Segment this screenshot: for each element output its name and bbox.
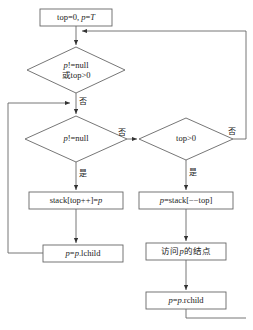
edge-label-top-yes: 是 xyxy=(189,166,197,177)
edge-go-right-feedback xyxy=(186,309,246,318)
node-push-shape xyxy=(29,192,123,209)
node-init-shape xyxy=(40,9,112,26)
edge-top-no-feedback xyxy=(82,31,246,139)
edge-label-pnull-no: 否 xyxy=(118,126,126,137)
node-go-left-shape xyxy=(43,245,123,262)
edge-label-main-no: 否 xyxy=(79,95,87,106)
flowchart-canvas: top=0, p=T p!=null 或top>0 p!=null top>0 … xyxy=(0,0,253,330)
edge-label-pnull-yes: 是 xyxy=(79,167,87,178)
node-pop-shape xyxy=(139,192,233,209)
edge-label-top-no: 否 xyxy=(228,125,236,136)
node-visit-shape xyxy=(146,243,226,260)
node-cond-main-shape xyxy=(27,47,125,93)
node-cond-top-shape xyxy=(139,118,233,160)
flowchart-graphics xyxy=(0,0,253,330)
node-go-right-shape xyxy=(146,292,226,309)
node-cond-pnull-shape xyxy=(25,116,127,162)
